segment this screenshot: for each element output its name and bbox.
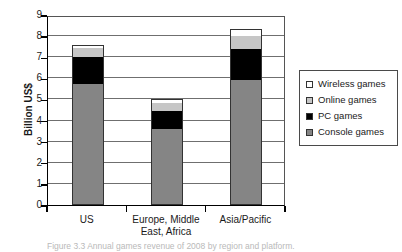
y-tick-label: 2 (20, 158, 42, 168)
legend-label: PC games (318, 111, 362, 121)
x-tick-mark (46, 206, 47, 212)
y-tick-label: 5 (20, 94, 42, 104)
y-tick-label: 4 (20, 116, 42, 126)
bar-segment[interactable] (72, 45, 104, 48)
legend-item[interactable]: Wireless games (306, 76, 393, 92)
y-tick-label: 6 (20, 73, 42, 83)
x-tick-mark (205, 206, 206, 212)
legend-label: Online games (318, 95, 377, 105)
figure-caption: Figure 3.3 Annual games revenue of 2008 … (47, 241, 377, 252)
bar-segment[interactable] (230, 80, 262, 205)
bar-segment[interactable] (230, 49, 262, 81)
legend-item[interactable]: Console games (306, 124, 393, 140)
legend-item[interactable]: PC games (306, 108, 393, 124)
bar-segment[interactable] (151, 129, 183, 205)
legend-label: Console games (318, 127, 384, 137)
legend: Wireless gamesOnline gamesPC gamesConsol… (299, 70, 398, 146)
y-tick-label: 9 (20, 10, 42, 20)
plot-area (47, 16, 285, 206)
y-tick-label: 3 (20, 137, 42, 147)
y-tick-label: 8 (20, 31, 42, 41)
legend-swatch-icon (306, 113, 313, 120)
bar-group[interactable] (72, 15, 104, 205)
bar-segment[interactable] (72, 57, 104, 83)
x-axis-category-label: Asia/Pacific (190, 214, 300, 226)
x-axis-label-line: Asia/Pacific (190, 214, 300, 226)
bar-segment[interactable] (72, 84, 104, 205)
bar-group[interactable] (151, 15, 183, 205)
y-tick-label: 0 (20, 200, 42, 210)
bar-segment[interactable] (151, 99, 183, 102)
bar-segment[interactable] (151, 111, 183, 129)
bar-segment[interactable] (230, 36, 262, 49)
legend-swatch-icon (306, 97, 313, 104)
x-tick-mark (284, 206, 285, 212)
legend-swatch-icon (306, 129, 313, 136)
bar-group[interactable] (230, 15, 262, 205)
x-axis-label-line: East, Africa (111, 226, 221, 238)
x-tick-mark (126, 206, 127, 212)
y-tick-label: 7 (20, 52, 42, 62)
legend-swatch-icon (306, 81, 313, 88)
bar-segment[interactable] (72, 48, 104, 58)
legend-label: Wireless games (318, 79, 386, 89)
bar-segment[interactable] (151, 103, 183, 111)
y-tick-label: 1 (20, 179, 42, 189)
legend-item[interactable]: Online games (306, 92, 393, 108)
bar-segment[interactable] (230, 29, 262, 36)
